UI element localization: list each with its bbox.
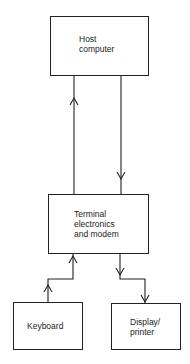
- display-printer-label: Display/ printer: [130, 317, 160, 337]
- terminal-label: Terminal electronics and modem: [74, 209, 119, 239]
- display-printer-box: Display/ printer: [111, 303, 181, 350]
- host-computer-label: Host computer: [79, 34, 114, 54]
- terminal-box: Terminal electronics and modem: [48, 194, 149, 254]
- keyboard-box: Keyboard: [13, 302, 83, 350]
- edge-keyboard-to-terminal: [48, 254, 73, 302]
- host-computer-box: Host computer: [50, 16, 149, 76]
- keyboard-label: Keyboard: [27, 321, 63, 331]
